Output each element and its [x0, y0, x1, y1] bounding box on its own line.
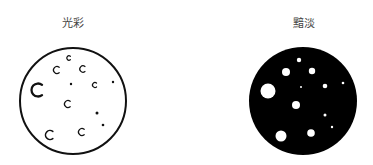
light-spot — [261, 84, 276, 99]
light-spot — [331, 126, 333, 128]
light-spot — [297, 58, 301, 62]
light-spot — [342, 82, 345, 85]
light-spot — [300, 86, 302, 88]
dim-disc-diagram — [0, 0, 373, 165]
light-spot — [282, 68, 290, 76]
light-spot — [307, 129, 315, 137]
light-spot — [323, 84, 328, 89]
light-spot — [276, 131, 287, 142]
dim-disc-fill — [249, 47, 357, 155]
light-spot — [292, 101, 300, 109]
light-spot — [309, 68, 315, 74]
light-spot — [324, 114, 327, 117]
